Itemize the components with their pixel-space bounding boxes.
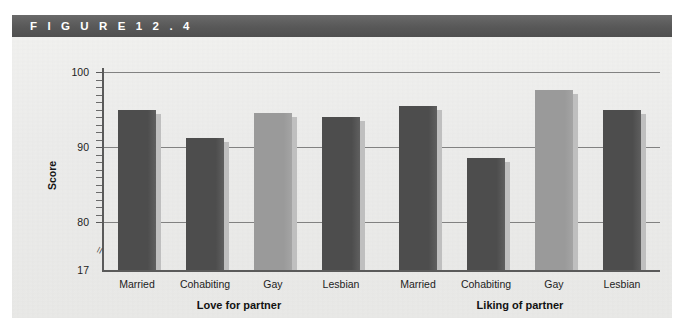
- y-tick-minor: [96, 72, 104, 73]
- category-label-married: Married: [100, 278, 174, 290]
- y-tick-minor: [96, 102, 102, 103]
- bar-liking-of-partner-gay: [535, 90, 573, 270]
- y-tick-minor: [96, 215, 102, 216]
- figure-header-bar: F I G U R E 1 2 . 4: [12, 15, 672, 37]
- bar-body: [399, 106, 437, 270]
- y-tick-minor: [96, 117, 102, 118]
- category-label-married: Married: [381, 278, 455, 290]
- y-tick-label: 90: [61, 141, 89, 153]
- y-tick-minor: [96, 185, 102, 186]
- bar-body: [467, 158, 505, 270]
- figure-number-label: F I G U R E 1 2 . 4: [30, 15, 193, 37]
- bar-body: [118, 110, 156, 270]
- y-tick-minor: [96, 110, 102, 111]
- bar-body: [186, 138, 224, 270]
- y-tick-minor: [96, 170, 102, 171]
- y-tick-minor: [96, 200, 102, 201]
- bar-body: [254, 113, 292, 270]
- bar-shadow: [224, 142, 229, 270]
- y-tick-minor: [96, 87, 102, 88]
- x-axis-line: [102, 270, 660, 272]
- y-tick-minor: [96, 207, 102, 208]
- figure-root: 100908017=ScoreMarriedCohabitingGayLesbi…: [0, 0, 684, 333]
- category-label-gay: Gay: [236, 278, 310, 290]
- bar-shadow: [641, 114, 646, 270]
- bar-shadow: [360, 121, 365, 270]
- bar-chart-plot-area: 100908017=ScoreMarriedCohabitingGayLesbi…: [12, 15, 672, 318]
- group-label-liking-of-partner: Liking of partner: [379, 299, 661, 311]
- y-axis-title: Score: [46, 161, 58, 190]
- y-tick-minor: [96, 95, 102, 96]
- bar-shadow: [437, 110, 442, 270]
- bar-body: [322, 117, 360, 270]
- y-tick-minor: [96, 140, 102, 141]
- category-label-cohabiting: Cohabiting: [168, 278, 242, 290]
- bar-shadow: [156, 114, 161, 270]
- bar-love-for-partner-lesbian: [322, 117, 360, 270]
- y-tick-minor: [96, 147, 104, 148]
- figure-panel: 100908017=ScoreMarriedCohabitingGayLesbi…: [12, 15, 672, 318]
- y-tick-minor: [96, 162, 102, 163]
- bar-love-for-partner-married: [118, 110, 156, 270]
- group-label-love-for-partner: Love for partner: [98, 299, 380, 311]
- bar-shadow: [292, 117, 297, 270]
- gridline-100: [103, 72, 660, 73]
- y-tick-minor: [96, 177, 102, 178]
- bar-body: [535, 90, 573, 270]
- bar-shadow: [573, 94, 578, 270]
- y-tick-minor: [96, 192, 102, 193]
- y-tick-minor: [96, 80, 102, 81]
- category-label-cohabiting: Cohabiting: [449, 278, 523, 290]
- y-tick-minor: [96, 155, 102, 156]
- category-label-lesbian: Lesbian: [585, 278, 659, 290]
- bar-love-for-partner-gay: [254, 113, 292, 270]
- bar-body: [603, 110, 641, 270]
- bar-love-for-partner-cohabiting: [186, 138, 224, 270]
- bar-liking-of-partner-lesbian: [603, 110, 641, 270]
- y-tick-label: 100: [61, 66, 89, 78]
- category-label-lesbian: Lesbian: [304, 278, 378, 290]
- y-axis-line: [102, 68, 104, 272]
- y-axis-break-icon: =: [92, 245, 106, 257]
- y-tick-label: 80: [61, 216, 89, 228]
- y-tick-minor: [96, 132, 102, 133]
- category-label-gay: Gay: [517, 278, 591, 290]
- bar-liking-of-partner-cohabiting: [467, 158, 505, 270]
- bar-liking-of-partner-married: [399, 106, 437, 270]
- y-tick-minor: [96, 222, 104, 223]
- y-tick-minor: [96, 125, 102, 126]
- y-tick-label: 17: [61, 264, 89, 276]
- bar-shadow: [505, 162, 510, 270]
